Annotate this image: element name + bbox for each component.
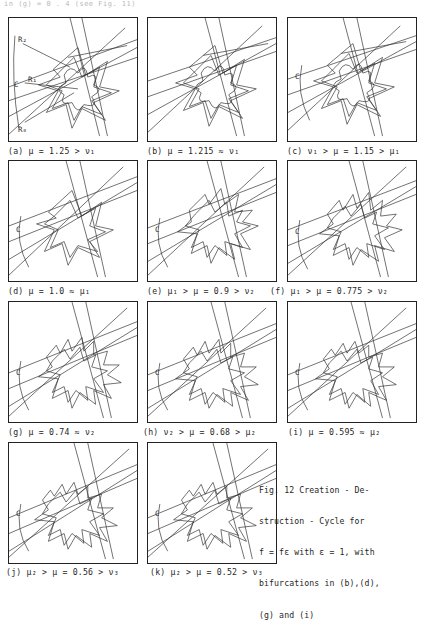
panel-caption-f: (f) μ₁ > μ = 0.775 > ν₂ xyxy=(270,286,388,296)
panel-a-label-R2: R₂ xyxy=(18,35,27,44)
panel-e: C xyxy=(147,160,277,282)
panel-caption-i: (i) μ = 0.595 ≈ μ₂ xyxy=(288,427,380,437)
panel-e-label-C: C xyxy=(155,225,159,234)
figure-caption-line-3: f = fε with ε = 1, with xyxy=(259,547,425,557)
panel-f-label-C: C xyxy=(295,227,299,236)
figure-caption-line-4: bifurcations in (b),(d), xyxy=(259,578,425,588)
panel-h-label-C: C xyxy=(155,368,159,377)
panel-d: C xyxy=(8,160,138,282)
panel-a-label-C: C xyxy=(14,80,18,89)
panel-c: C xyxy=(287,17,417,142)
panel-b xyxy=(147,17,277,142)
figure-caption-line-2: struction - Cycle for xyxy=(259,516,425,526)
page-top-partial-text: in (g) = 0 . 4 (see Fig. 11) xyxy=(4,0,204,9)
panel-caption-b: (b) μ = 1.215 ≈ ν₁ xyxy=(147,146,239,156)
panel-d-label-C: C xyxy=(16,225,20,234)
panel-a-label-R0: R₀ xyxy=(18,125,27,134)
panel-f: C xyxy=(287,160,417,282)
panel-a-label-R1: R₁ xyxy=(28,75,37,84)
panel-caption-e: (e) μ₁ > μ = 0.9 > ν₂ xyxy=(147,286,255,296)
panel-caption-h: (h) ν₂ > μ = 0.68 > μ₂ xyxy=(143,427,256,437)
panel-caption-a: (a) μ = 1.25 > ν₁ xyxy=(8,146,95,156)
panel-g-label-C: C xyxy=(16,368,20,377)
panel-caption-d: (d) μ = 1.0 ≈ μ₁ xyxy=(8,286,90,296)
figure-caption-line-1: Fig. 12 Creation - De- xyxy=(259,485,425,495)
panel-caption-j: (j) μ₂ > μ = 0.56 > ν₃ xyxy=(6,567,119,577)
panel-j: C xyxy=(8,442,138,564)
panel-caption-g: (g) μ = 0.74 ≈ ν₂ xyxy=(8,427,95,437)
panel-c-label-C: C xyxy=(295,72,299,81)
panel-caption-c: (c) ν₁ > μ = 1.15 > μ₁ xyxy=(287,146,400,156)
figure-caption-line-5: (g) and (i) xyxy=(259,610,425,620)
panel-a: R₂ C R₁ R₀ xyxy=(8,17,138,142)
panel-i-label-C: C xyxy=(295,368,299,377)
panel-k-label-C: C xyxy=(155,509,159,518)
panel-i: C xyxy=(287,301,417,423)
panel-g: C xyxy=(8,301,138,423)
panel-h: C xyxy=(147,301,277,423)
panel-k: C xyxy=(147,442,277,564)
panel-caption-k: (k) μ₂ > μ = 0.52 > ν₃ xyxy=(150,567,263,577)
panel-j-label-C: C xyxy=(16,509,20,518)
figure-caption: Fig. 12 Creation - De- struction - Cycle… xyxy=(259,464,425,624)
